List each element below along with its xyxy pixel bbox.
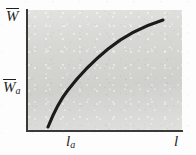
y-axis-label-w-bar-a-text: W (3, 79, 16, 95)
y-axis-label-w-bar-a: Wa (3, 80, 21, 96)
y-axis-label-w-bar: W (6, 9, 19, 24)
plot-background-texture (27, 10, 182, 131)
x-axis-label-l: l (174, 134, 178, 149)
y-axis-label-w-bar-a-subscript: a (16, 85, 21, 96)
y-axis-label-w-bar-text: W (6, 8, 19, 24)
x-axis-line (26, 130, 183, 132)
plot-background-shading (27, 10, 182, 131)
x-axis-label-l-text: l (174, 133, 178, 149)
y-axis-line (26, 9, 28, 132)
x-axis-label-l-a: la (66, 134, 75, 150)
wage-labor-figure: W Wa la l (0, 0, 196, 155)
x-axis-label-l-a-subscript: a (70, 139, 75, 150)
plot-area (27, 10, 182, 131)
